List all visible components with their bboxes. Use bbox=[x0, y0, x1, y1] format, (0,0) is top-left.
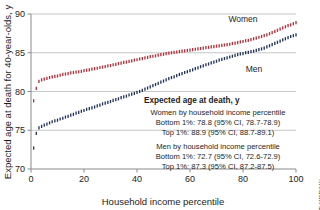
x-tick-label-60: 60 bbox=[185, 174, 195, 184]
y-axis-title: Expected age at death for 40-year-olds, … bbox=[2, 5, 13, 180]
x-tick-label-80: 80 bbox=[238, 174, 248, 184]
y-tick-label-85: 85 bbox=[15, 48, 25, 58]
legend-line-women-bottom: Bottom 1%: 78.8 (95% CI, 78.7-78.9) bbox=[156, 118, 281, 127]
series-label-women: Women bbox=[228, 14, 257, 24]
expected-age-at-death-chart: 7075808590 020406080100 Women Men Househ… bbox=[0, 0, 320, 210]
legend-line-women-header: Women by household income percentile bbox=[151, 108, 286, 117]
legend-annotation: Expected age at death, y Women by househ… bbox=[144, 96, 285, 171]
x-tick-label-0: 0 bbox=[28, 174, 33, 184]
credit-container: DATA FROM CHETTY ET AL. (2016), JOURNAL … bbox=[298, 0, 320, 210]
legend-title: Expected age at death, y bbox=[144, 96, 240, 105]
legend-line-men-top: Top 1%: 87.3 (95% CI, 87.2-87.5) bbox=[162, 162, 275, 171]
y-tick-label-70: 70 bbox=[15, 164, 25, 174]
series-label-men: Men bbox=[246, 64, 263, 74]
x-axis-title: Household income percentile bbox=[102, 196, 225, 207]
y-tick-label-75: 75 bbox=[15, 125, 25, 135]
x-tick-label-20: 20 bbox=[79, 174, 89, 184]
y-tick-label-90: 90 bbox=[15, 9, 25, 19]
legend-line-men-header: Men by household income percentile bbox=[156, 142, 280, 151]
legend-line-women-top: Top 1%: 88.9 (95% CI, 88.7-89.1) bbox=[162, 128, 275, 137]
y-tick-label-80: 80 bbox=[15, 87, 25, 97]
legend-line-men-bottom: Bottom 1%: 72.7 (95% CI, 72.6-72.9) bbox=[156, 152, 281, 161]
x-tick-label-40: 40 bbox=[132, 174, 142, 184]
